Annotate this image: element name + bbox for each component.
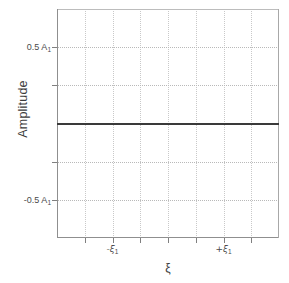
x-tick-label-negative: -ξ1 xyxy=(107,244,119,254)
horizontal-gridline xyxy=(57,162,279,163)
y-tick-mark xyxy=(52,47,57,48)
y-tick-mark xyxy=(52,162,57,163)
x-tick-mark xyxy=(196,238,197,243)
y-tick-label-lower-subscript: 1 xyxy=(47,199,51,206)
plot-area xyxy=(57,9,279,238)
series-amplitude-line xyxy=(57,123,279,125)
x-tick-mark xyxy=(85,238,86,243)
y-tick-label-lower-text: -0.5 A xyxy=(24,195,48,205)
y-tick-label-upper-subscript: 1 xyxy=(47,46,51,53)
x-tick-mark xyxy=(140,238,141,243)
y-tick-label-upper-text: 0.5 A xyxy=(27,42,48,52)
horizontal-gridline xyxy=(57,47,279,48)
x-tick-mark xyxy=(168,238,169,243)
y-tick-label-upper: 0.5 A1 xyxy=(6,42,51,52)
x-tick-label-positive-subscript: 1 xyxy=(228,248,232,255)
horizontal-gridline xyxy=(57,85,279,86)
x-tick-label-positive: +ξ1 xyxy=(215,244,231,254)
x-tick-mark xyxy=(251,238,252,243)
horizontal-gridline xyxy=(57,200,279,201)
chart-figure: Amplitude ξ xyxy=(0,0,289,283)
x-tick-label-negative-subscript: 1 xyxy=(115,248,119,255)
y-axis-title: Amplitude xyxy=(16,39,30,179)
y-tick-mark xyxy=(52,200,57,201)
x-axis-title: ξ xyxy=(57,261,279,275)
plot-frame-top xyxy=(57,9,279,10)
x-tick-mark xyxy=(113,238,114,243)
y-tick-mark xyxy=(52,85,57,86)
x-tick-label-positive-text: +ξ xyxy=(215,244,228,254)
y-tick-label-lower: -0.5 A1 xyxy=(4,195,51,205)
x-tick-mark xyxy=(224,238,225,243)
